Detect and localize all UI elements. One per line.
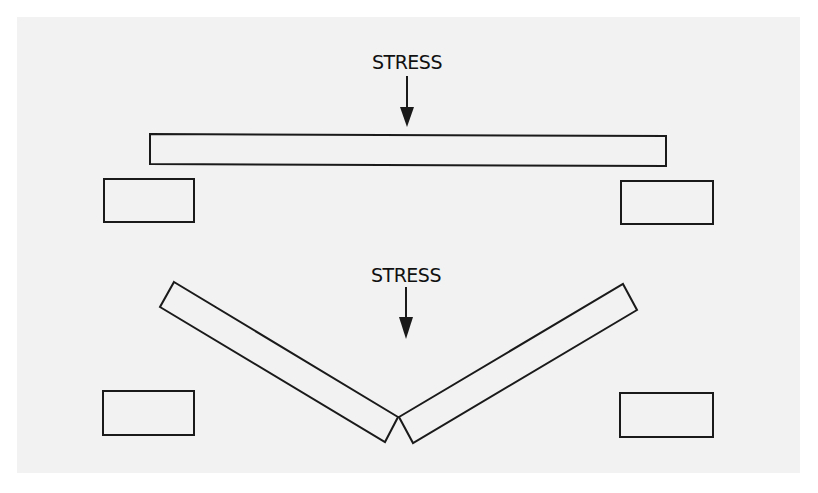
stress-arrow-top-icon [400,76,414,127]
fractured-beam-left-piece [160,282,398,442]
after-panel: STRESS [103,264,713,443]
before-panel: STRESS [104,51,713,224]
support-right-top [621,181,713,224]
intact-beam [150,134,666,166]
support-right-bottom [620,393,713,437]
support-left-bottom [103,391,194,435]
stress-label-bottom: STRESS [371,264,441,286]
stress-arrow-bottom-icon [399,287,413,339]
fractured-beam-right-piece [399,284,637,443]
stress-fracture-diagram: STRESS STRESS [0,0,818,493]
stress-label-top: STRESS [372,51,442,73]
support-left-top [104,179,194,222]
